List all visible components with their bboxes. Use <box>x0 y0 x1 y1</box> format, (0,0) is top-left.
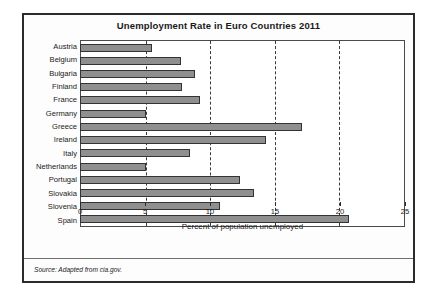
bar <box>80 149 190 157</box>
category-label: Greece <box>24 120 80 133</box>
category-label: Finland <box>24 80 80 93</box>
bar <box>80 44 152 52</box>
bars-layer <box>81 41 404 226</box>
bar <box>80 83 182 91</box>
bar <box>80 110 146 118</box>
bar-row <box>81 147 404 160</box>
chart-title: Unemployment Rate in Euro Countries 2011 <box>24 20 413 31</box>
category-label: Slovenia <box>24 200 80 213</box>
x-tick-label: 0 <box>78 207 82 216</box>
bar-row <box>81 173 404 186</box>
source-divider <box>24 258 413 259</box>
bar <box>80 136 266 144</box>
bar-row <box>81 94 404 107</box>
category-label: Bulgaria <box>24 67 80 80</box>
x-tick-label: 5 <box>143 207 147 216</box>
category-label: Austria <box>24 40 80 53</box>
bar-row <box>81 120 404 133</box>
category-label: Italy <box>24 147 80 160</box>
x-tick-label: 25 <box>401 207 409 216</box>
bar-row <box>81 67 404 80</box>
x-tick-label: 15 <box>271 207 279 216</box>
bar-row <box>81 160 404 173</box>
x-tick-label: 10 <box>206 207 214 216</box>
bar <box>80 57 181 65</box>
x-axis-title: Percent of population unemployed <box>80 222 405 231</box>
bar <box>80 189 254 197</box>
x-tick-label: 20 <box>336 207 344 216</box>
plot-area <box>80 40 405 227</box>
bar-row <box>81 54 404 67</box>
bar-row <box>81 107 404 120</box>
bar-row <box>81 81 404 94</box>
category-label: Portugal <box>24 174 80 187</box>
bar <box>80 163 146 171</box>
bar <box>80 123 302 131</box>
category-label: Netherlands <box>24 160 80 173</box>
source-note: Source: Adapted from cia.gov. <box>34 266 122 273</box>
chart-figure-frame: Unemployment Rate in Euro Countries 2011… <box>22 13 415 283</box>
category-label: France <box>24 93 80 106</box>
category-label: Belgium <box>24 53 80 66</box>
x-axis: 0510152025 <box>80 202 405 220</box>
bar-row <box>81 41 404 54</box>
bar <box>80 96 200 104</box>
x-tick <box>80 202 81 206</box>
x-tick <box>340 202 341 206</box>
x-tick <box>275 202 276 206</box>
bar-row <box>81 134 404 147</box>
category-label: Spain <box>24 214 80 227</box>
category-label: Slovakia <box>24 187 80 200</box>
bar <box>80 176 240 184</box>
category-label: Germany <box>24 107 80 120</box>
x-tick <box>210 202 211 206</box>
x-tick <box>405 202 406 206</box>
category-label: Ireland <box>24 134 80 147</box>
x-tick <box>145 202 146 206</box>
bar <box>80 70 195 78</box>
category-axis-labels: AustriaBelgiumBulgariaFinlandFranceGerma… <box>24 40 80 227</box>
bar-row <box>81 186 404 199</box>
